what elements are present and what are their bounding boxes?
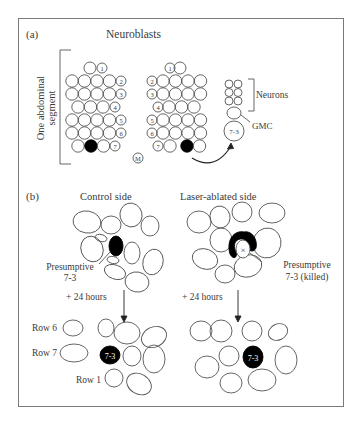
ablated-side-title: Laser-ablated side bbox=[180, 191, 257, 202]
svg-text:5: 5 bbox=[150, 117, 153, 124]
control-side-title: Control side bbox=[80, 191, 132, 202]
lineage-7-3-label: 7-3 bbox=[229, 128, 239, 136]
ablated-after-cells bbox=[190, 320, 297, 393]
svg-text:5: 5 bbox=[119, 117, 122, 124]
ablated-7-3-label: 7-3 bbox=[248, 354, 259, 363]
svg-text:3: 3 bbox=[150, 91, 153, 98]
left-neuroblast-array bbox=[66, 62, 116, 152]
row-1-label: Row 1 bbox=[76, 375, 101, 385]
lineage-arrow bbox=[192, 146, 231, 163]
left-7-3-neuroblast bbox=[85, 140, 97, 152]
ablated-before-cells bbox=[187, 202, 285, 283]
gmc-cell bbox=[227, 107, 241, 119]
panel-b-label: (b) bbox=[26, 190, 39, 203]
svg-text:1: 1 bbox=[168, 65, 171, 72]
svg-text:7: 7 bbox=[156, 143, 160, 150]
gmc-label: GMC bbox=[252, 121, 273, 131]
arrow-down-icon bbox=[235, 316, 241, 322]
svg-text:4: 4 bbox=[113, 104, 117, 111]
left-row-labels: 1 2 3 4 5 6 7 M bbox=[100, 65, 141, 162]
arrowhead-icon bbox=[228, 143, 234, 149]
neuroblasts-title: Neuroblasts bbox=[106, 28, 161, 40]
right-row-number-circles bbox=[147, 63, 175, 151]
segment-label-line2: segment bbox=[46, 90, 57, 125]
control-presumptive-7-3 bbox=[109, 236, 123, 256]
arrow-down-icon bbox=[121, 316, 127, 322]
midline-label: M bbox=[135, 155, 141, 162]
svg-text:6: 6 bbox=[119, 130, 123, 137]
neurons-label: Neurons bbox=[256, 90, 288, 100]
right-7-3-neuroblast bbox=[181, 140, 193, 152]
control-before-cells bbox=[71, 201, 166, 294]
ablated-time-label: + 24 hours bbox=[182, 292, 223, 302]
svg-text:2: 2 bbox=[119, 78, 122, 85]
neurons-bracket bbox=[248, 79, 254, 111]
control-annotation-line1: Presumptive bbox=[46, 262, 94, 272]
svg-text:4: 4 bbox=[156, 104, 160, 111]
row-7-label: Row 7 bbox=[32, 348, 57, 358]
segment-label-line1: One abdominal bbox=[35, 76, 46, 141]
ablated-annotation-line2: 7-3 (killed) bbox=[285, 272, 328, 283]
killed-marker-icon: × bbox=[240, 245, 245, 255]
segment-bracket bbox=[60, 50, 71, 164]
svg-text:3: 3 bbox=[119, 91, 122, 98]
svg-text:1: 1 bbox=[100, 65, 103, 72]
svg-text:7: 7 bbox=[113, 143, 117, 150]
ablated-leader-line bbox=[250, 253, 262, 262]
neuroblast-diagram: (a) Neuroblasts One abdominal segment 1 … bbox=[0, 0, 362, 424]
svg-text:2: 2 bbox=[150, 78, 153, 85]
ablated-annotation-line1: Presumptive bbox=[283, 260, 331, 270]
control-annotation-line2: 7-3 bbox=[64, 273, 77, 283]
svg-text:6: 6 bbox=[150, 130, 154, 137]
panel-a-label: (a) bbox=[26, 28, 39, 41]
right-neuroblast-array bbox=[157, 62, 207, 152]
control-time-label: + 24 hours bbox=[66, 292, 107, 302]
row-6-label: Row 6 bbox=[32, 323, 57, 333]
gmc-leader-line bbox=[241, 115, 250, 122]
control-7-3-label: 7-3 bbox=[105, 352, 116, 361]
